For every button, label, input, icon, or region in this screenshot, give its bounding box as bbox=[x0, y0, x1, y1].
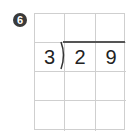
division-bracket-icon bbox=[59, 41, 67, 70]
grid-cell bbox=[96, 14, 126, 43]
grid-cell bbox=[65, 101, 96, 131]
grid-cell bbox=[96, 101, 126, 131]
grid-cell bbox=[65, 14, 96, 43]
grid-cell bbox=[35, 14, 65, 43]
long-division-grid: 3 2 9 bbox=[34, 13, 125, 130]
dividend-digit-cell: 9 bbox=[96, 43, 126, 72]
grid-cell bbox=[35, 72, 65, 101]
division-bar bbox=[63, 41, 125, 43]
dividend-digit-cell: 2 bbox=[65, 43, 96, 72]
grid-cell bbox=[96, 72, 126, 101]
grid-cell bbox=[65, 72, 96, 101]
grid-cell bbox=[35, 101, 65, 131]
problem-number-badge: 6 bbox=[13, 13, 27, 27]
